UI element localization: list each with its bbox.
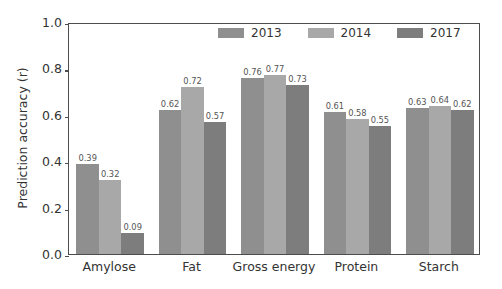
bar-value-label: 0.32 (101, 170, 119, 179)
y-axis-tick-labels: 0.00.20.40.60.81.0 (24, 0, 62, 289)
bar[interactable]: 0.62 (159, 110, 182, 254)
bar-value-label: 0.62 (161, 100, 179, 109)
bar[interactable]: 0.57 (204, 122, 227, 254)
bar-value-label: 0.72 (183, 77, 201, 86)
bar[interactable]: 0.64 (429, 106, 452, 254)
y-tick-mark (65, 256, 69, 257)
y-tick-mark (65, 24, 69, 25)
bar[interactable]: 0.55 (369, 126, 392, 254)
x-tick-label: Amylose (82, 260, 135, 274)
bar-value-label: 0.58 (348, 109, 366, 118)
bar[interactable]: 0.73 (286, 85, 309, 254)
bar[interactable]: 0.32 (99, 180, 122, 254)
legend-label: 2017 (430, 27, 461, 39)
y-tick-mark (65, 210, 69, 211)
y-tick-label: 0.0 (26, 249, 62, 261)
bar-value-label: 0.64 (431, 96, 449, 105)
bar-group: 0.390.320.09 (76, 24, 144, 254)
bar-value-label: 0.55 (371, 116, 389, 125)
bar-value-label: 0.61 (326, 102, 344, 111)
bar[interactable]: 0.77 (264, 75, 287, 254)
bar[interactable]: 0.62 (451, 110, 474, 254)
bar-group: 0.760.770.73 (241, 24, 309, 254)
x-tick-label: Gross energy (233, 260, 316, 274)
legend-item-2013[interactable]: 2013 (218, 27, 282, 39)
bar-value-label: 0.63 (408, 98, 426, 107)
bar[interactable]: 0.39 (76, 164, 99, 254)
y-tick-label: 1.0 (26, 17, 62, 29)
bar[interactable]: 0.63 (406, 108, 429, 254)
bar[interactable]: 0.61 (324, 112, 347, 254)
legend-item-2017[interactable]: 2017 (397, 27, 461, 39)
legend-swatch (218, 28, 244, 38)
bar-value-label: 0.09 (123, 223, 141, 232)
bar-value-label: 0.62 (453, 100, 471, 109)
bar-value-label: 0.57 (206, 112, 224, 121)
y-tick-mark (65, 163, 69, 164)
bar-value-label: 0.73 (288, 75, 306, 84)
bar[interactable]: 0.09 (121, 233, 144, 254)
bar[interactable]: 0.76 (241, 78, 264, 254)
legend-swatch (308, 28, 334, 38)
bar-group: 0.630.640.62 (406, 24, 474, 254)
y-tick-mark (65, 117, 69, 118)
x-tick-label: Starch (419, 260, 459, 274)
x-tick-label: Protein (334, 260, 378, 274)
y-tick-label: 0.4 (26, 156, 62, 168)
bar-group: 0.610.580.55 (324, 24, 392, 254)
bar-group: 0.620.720.57 (159, 24, 227, 254)
plot-area: 0.390.320.090.620.720.570.760.770.730.61… (68, 23, 480, 255)
y-tick-label: 0.8 (26, 63, 62, 75)
bar-value-label: 0.76 (243, 68, 261, 77)
bar[interactable]: 0.58 (346, 119, 369, 254)
legend-label: 2014 (341, 27, 372, 39)
legend-label: 2013 (251, 27, 282, 39)
legend-swatch (397, 28, 423, 38)
y-tick-label: 0.6 (26, 110, 62, 122)
legend-item-2014[interactable]: 2014 (308, 27, 372, 39)
bar-value-label: 0.39 (78, 154, 96, 163)
chart-legend: 201320142017 (218, 27, 461, 39)
bar[interactable]: 0.72 (181, 87, 204, 254)
bar-value-label: 0.77 (266, 65, 284, 74)
bar-chart-figure: Prediction accuracy (r) 0.00.20.40.60.81… (0, 0, 502, 289)
y-tick-mark (65, 70, 69, 71)
plot-inner: 0.390.320.090.620.720.570.760.770.730.61… (69, 24, 479, 254)
x-tick-label: Fat (182, 260, 201, 274)
y-tick-label: 0.2 (26, 203, 62, 215)
